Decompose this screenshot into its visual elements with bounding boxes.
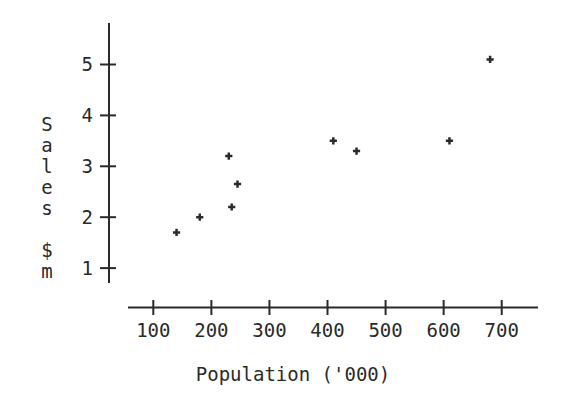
data-point-marker	[196, 214, 203, 221]
y-tick-label: 3	[82, 155, 93, 177]
data-point-marker	[225, 153, 232, 160]
y-tick-label: 2	[82, 206, 93, 228]
data-point-marker	[234, 181, 241, 188]
y-axis-title-char: m	[41, 260, 52, 282]
x-tick-label: 200	[194, 319, 228, 341]
data-point-marker	[353, 147, 360, 154]
data-point-marker	[330, 137, 337, 144]
x-tick-label: 400	[310, 319, 344, 341]
y-axis-title-char: l	[41, 155, 52, 177]
y-axis-title-char: $	[41, 239, 52, 261]
scatter-chart-figure: Population ('000) 1234510020030040050060…	[0, 0, 572, 401]
data-point-marker	[487, 56, 494, 63]
y-axis-title-char: a	[41, 134, 52, 156]
data-point-marker	[446, 137, 453, 144]
y-tick-label: 4	[82, 104, 93, 126]
y-axis-title-char: S	[41, 113, 52, 135]
x-tick-label: 300	[252, 319, 286, 341]
y-tick-label: 5	[82, 53, 93, 75]
y-axis-title-char: s	[41, 197, 52, 219]
x-tick-label: 500	[368, 319, 402, 341]
x-tick-label: 100	[136, 319, 170, 341]
y-tick-label: 1	[82, 257, 93, 279]
x-tick-label: 700	[485, 319, 519, 341]
data-point-marker	[173, 229, 180, 236]
data-point-marker	[228, 203, 235, 210]
x-axis-title: Population ('000)	[196, 363, 390, 385]
scatter-plot: Population ('000) 1234510020030040050060…	[0, 0, 572, 401]
y-axis-title-char: e	[41, 176, 52, 198]
x-tick-label: 600	[426, 319, 460, 341]
